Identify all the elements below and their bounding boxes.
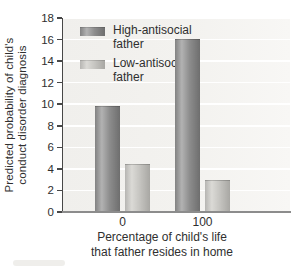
x-axis-line <box>62 211 291 213</box>
y-tick-label: 0 <box>24 206 54 218</box>
x-tick-label: 100 <box>181 215 225 229</box>
bar-high-antisocial-group1 <box>175 39 200 212</box>
y-tick-mark <box>57 60 62 62</box>
y-axis-title-line1: Predicted probability of child's <box>3 15 16 215</box>
x-axis-title-line2: that father resides in home <box>62 245 262 260</box>
bar-low-antisocial-group0 <box>125 164 150 212</box>
y-tick-mark <box>57 39 62 41</box>
y-tick-label: 2 <box>24 184 54 196</box>
bar-low-antisocial-group1 <box>205 180 230 212</box>
cropped-caption-fragment <box>13 260 65 266</box>
y-tick-mark <box>57 190 62 192</box>
gridline <box>63 17 290 19</box>
x-tick-label: 0 <box>101 215 145 229</box>
y-tick-label: 12 <box>24 77 54 89</box>
legend-swatch <box>80 27 105 36</box>
plot-area: High-antisocial fatherLow-antisocial fat… <box>63 18 290 212</box>
bar-high-antisocial-group0 <box>95 106 120 212</box>
y-tick-mark <box>57 211 62 213</box>
y-tick-mark <box>57 103 62 105</box>
y-tick-label: 16 <box>24 34 54 46</box>
bar-chart-figure: Predicted probability of child's conduct… <box>0 0 297 267</box>
y-tick-label: 4 <box>24 163 54 175</box>
y-tick-label: 6 <box>24 141 54 153</box>
y-tick-mark <box>57 168 62 170</box>
y-tick-label: 18 <box>24 12 54 24</box>
x-axis-title: Percentage of child's life that father r… <box>62 230 262 259</box>
y-tick-mark <box>57 125 62 127</box>
x-axis-title-line1: Percentage of child's life <box>62 230 262 245</box>
y-tick-label: 8 <box>24 120 54 132</box>
legend-swatch <box>80 60 105 69</box>
y-tick-mark <box>57 82 62 84</box>
y-tick-mark <box>57 147 62 149</box>
y-tick-label: 10 <box>24 98 54 110</box>
y-axis-line <box>62 18 64 212</box>
y-tick-label: 14 <box>24 55 54 67</box>
y-tick-mark <box>57 17 62 19</box>
